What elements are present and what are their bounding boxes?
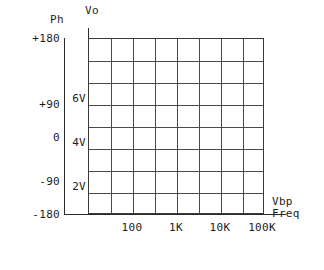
grid-line-vertical-3 <box>155 39 156 213</box>
grid-line-horizontal-4 <box>89 127 263 128</box>
grid-line-vertical-4 <box>177 39 178 213</box>
frequency-axis-caption-freq: Freq <box>272 208 300 220</box>
grid-line-horizontal-1 <box>89 61 263 62</box>
bode-plot-graph: Ph Vo +180+900-90-180 6V4V2V Vbp Freq 10… <box>0 0 324 270</box>
voltage-tick-label-2: 2V <box>2 181 86 192</box>
frequency-tick-label-3: 100K <box>248 222 276 233</box>
grid-line-horizontal-3 <box>89 105 263 106</box>
frequency-axis-caption-group: Vbp Freq <box>272 196 300 220</box>
grid-line-vertical-1 <box>111 39 112 213</box>
grid-line-vertical-6 <box>221 39 222 213</box>
grid-line-horizontal-2 <box>89 83 263 84</box>
grid-line-horizontal-6 <box>89 171 263 172</box>
grid-line-vertical-5 <box>199 39 200 213</box>
voltage-tick-label-1: 4V <box>2 137 86 148</box>
voltage-tick-label-0: 6V <box>2 93 86 104</box>
grid-line-vertical-7 <box>243 39 244 213</box>
plot-area-grid <box>88 38 264 214</box>
voltage-axis-caption: Vo <box>85 5 99 17</box>
grid-line-vertical-2 <box>133 39 134 213</box>
frequency-axis-line <box>64 214 286 215</box>
frequency-tick-label-1: 1K <box>169 222 183 233</box>
voltage-tick-label-group: 6V4V2V <box>0 0 86 270</box>
grid-line-horizontal-7 <box>89 193 263 194</box>
frequency-tick-label-0: 100 <box>122 222 143 233</box>
grid-line-horizontal-5 <box>89 149 263 150</box>
frequency-tick-label-2: 10K <box>210 222 231 233</box>
